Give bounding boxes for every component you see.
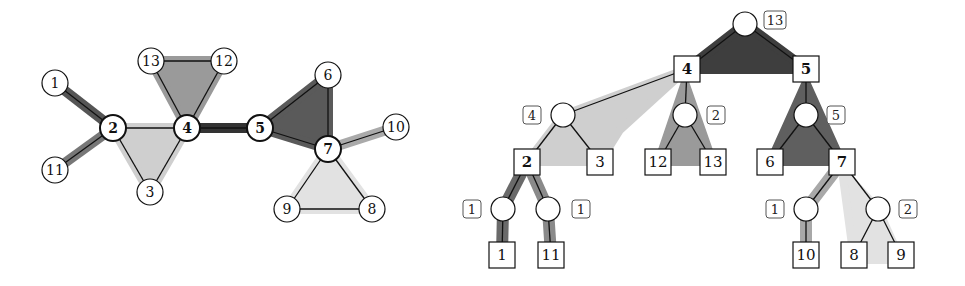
diagram-canvas: 12113413125671098 1342511124523121367111…	[0, 0, 965, 286]
graph-node-8: 8	[359, 196, 385, 222]
svg-text:10: 10	[387, 119, 405, 135]
tree-box-node-10: 10	[793, 242, 819, 268]
svg-text:2: 2	[108, 120, 118, 136]
svg-text:2: 2	[712, 108, 720, 123]
svg-text:1: 1	[577, 202, 585, 217]
svg-text:5: 5	[255, 120, 265, 136]
svg-text:5: 5	[832, 108, 840, 123]
svg-text:6: 6	[765, 153, 775, 171]
weight-label: 13	[764, 11, 786, 29]
tree-circle-node	[794, 197, 818, 221]
graph-node-5: 5	[247, 115, 273, 141]
graph-node-6: 6	[315, 62, 341, 88]
tree-box-node-7: 7	[829, 149, 855, 175]
graph-node-9: 9	[274, 196, 300, 222]
tree-circle-node	[866, 197, 890, 221]
graph-node-4: 4	[174, 115, 200, 141]
weight-label: 5	[827, 106, 845, 124]
svg-text:11: 11	[46, 162, 64, 178]
svg-text:5: 5	[801, 60, 811, 78]
graph-node-12: 12	[211, 48, 237, 74]
graph-node-7: 7	[315, 136, 341, 162]
svg-text:10: 10	[796, 246, 815, 264]
tree-circle-node	[551, 103, 575, 127]
graph-node-11: 11	[42, 157, 68, 183]
tree-box-node-2: 2	[514, 149, 540, 175]
tree-box-node-13: 13	[700, 149, 726, 175]
svg-text:7: 7	[837, 153, 847, 171]
svg-text:13: 13	[703, 153, 722, 171]
tree-box-node-8: 8	[841, 242, 867, 268]
svg-text:4: 4	[528, 108, 536, 123]
weight-label: 1	[766, 200, 784, 218]
svg-text:13: 13	[142, 53, 160, 69]
svg-text:2: 2	[522, 153, 532, 171]
tree-circle-node	[794, 103, 818, 127]
tree-circle-node	[491, 197, 515, 221]
tree-box-node-12: 12	[645, 149, 671, 175]
tree-box-node-5: 5	[793, 56, 819, 82]
tree-box-node-6: 6	[757, 149, 783, 175]
svg-text:8: 8	[368, 201, 377, 217]
svg-text:12: 12	[648, 153, 667, 171]
tree-circle-node	[733, 12, 757, 36]
weight-label: 1	[463, 200, 481, 218]
svg-text:7: 7	[323, 141, 333, 157]
graph-node-13: 13	[138, 48, 164, 74]
tree-box-node-9: 9	[888, 242, 914, 268]
svg-text:9: 9	[283, 201, 292, 217]
graph-node-10: 10	[383, 114, 409, 140]
svg-text:9: 9	[896, 246, 906, 264]
svg-text:1: 1	[771, 202, 779, 217]
svg-text:4: 4	[182, 120, 192, 136]
tree-box-node-4: 4	[674, 56, 700, 82]
weight-label: 1	[572, 200, 590, 218]
tree-box-node-1: 1	[489, 242, 515, 268]
weight-label: 2	[899, 200, 917, 218]
svg-text:11: 11	[541, 246, 560, 264]
graph-node-2: 2	[100, 115, 126, 141]
tree-box-node-11: 11	[538, 242, 564, 268]
svg-text:3: 3	[146, 184, 155, 200]
weight-label: 4	[523, 106, 541, 124]
svg-text:3: 3	[595, 153, 605, 171]
svg-text:8: 8	[849, 246, 859, 264]
weight-label: 2	[707, 106, 725, 124]
tree-circle-node	[536, 197, 560, 221]
svg-text:1: 1	[468, 202, 476, 217]
tree-circle-node	[673, 103, 697, 127]
graph-node-1: 1	[42, 70, 68, 96]
svg-text:6: 6	[324, 67, 333, 83]
tree-box-node-3: 3	[587, 149, 613, 175]
svg-text:13: 13	[767, 13, 784, 28]
svg-text:2: 2	[904, 202, 912, 217]
svg-text:1: 1	[51, 75, 60, 91]
graph-node-3: 3	[137, 179, 163, 205]
svg-text:1: 1	[497, 246, 507, 264]
svg-text:4: 4	[682, 60, 692, 78]
svg-text:12: 12	[215, 53, 233, 69]
